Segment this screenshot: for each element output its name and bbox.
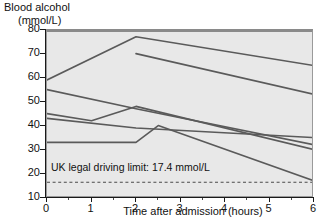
y-axis-line xyxy=(45,29,46,198)
x-tick-minor xyxy=(68,198,69,200)
series-line-patient-1 xyxy=(47,37,313,80)
y-tick-30 xyxy=(40,149,45,150)
x-axis-title-label: Time after admission (hours) xyxy=(123,205,263,217)
series-line-patient-5 xyxy=(47,118,313,137)
y-tick-label-40: 40 xyxy=(2,119,40,130)
y-tick-label-70: 70 xyxy=(2,47,40,58)
series-line-patient-3 xyxy=(136,54,313,95)
y-tick-label-20: 20 xyxy=(2,167,40,178)
y-tick-50 xyxy=(40,101,45,102)
y-tick-label-60: 60 xyxy=(2,71,40,82)
y-tick-label-80: 80 xyxy=(2,23,40,34)
x-axis-title: Time after admission (hours) xyxy=(0,205,330,217)
x-tick-minor xyxy=(246,198,247,200)
y-tick-label-10: 10 xyxy=(2,191,40,202)
y-tick-80 xyxy=(40,29,45,30)
y-tick-10 xyxy=(40,197,45,198)
legal-limit-label: UK legal driving limit: 17.4 mmol/L xyxy=(51,161,210,173)
x-tick-minor xyxy=(113,198,114,200)
x-tick-minor xyxy=(291,198,292,200)
x-tick-minor xyxy=(202,198,203,200)
y-tick-70 xyxy=(40,53,45,54)
x-tick-minor xyxy=(157,198,158,200)
y-tick-60 xyxy=(40,77,45,78)
blood-alcohol-chart: Blood alcohol(mmol/L) 1020304050607080 0… xyxy=(0,0,330,223)
y-tick-label-50: 50 xyxy=(2,95,40,106)
y-tick-20 xyxy=(40,173,45,174)
y-tick-40 xyxy=(40,125,45,126)
y-axis-ticks: 1020304050607080 xyxy=(0,0,40,223)
y-tick-label-30: 30 xyxy=(2,143,40,154)
